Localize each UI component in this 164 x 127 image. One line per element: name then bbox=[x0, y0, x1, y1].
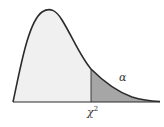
body-area bbox=[13, 10, 91, 102]
chi-symbol: χ bbox=[87, 106, 94, 119]
alpha-label: α bbox=[119, 72, 126, 83]
chi-square-diagram bbox=[0, 0, 164, 127]
chi-square-critical-label: χ2 bbox=[87, 106, 98, 118]
chi-exponent: 2 bbox=[94, 105, 98, 113]
